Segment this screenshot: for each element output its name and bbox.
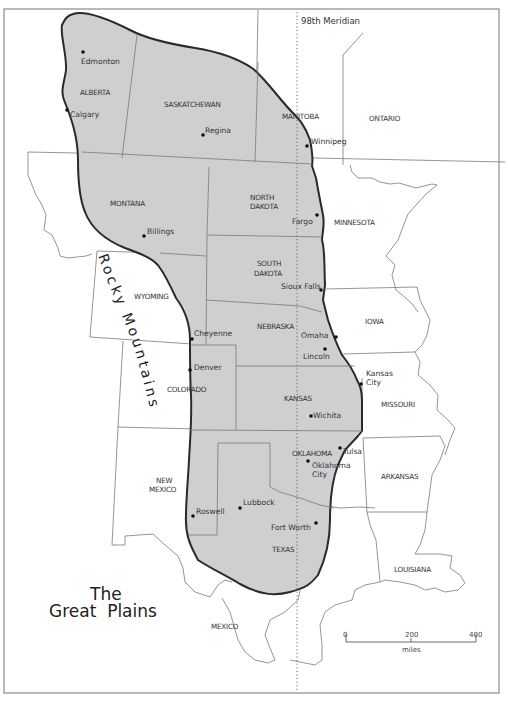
label-louisiana: LOUISIANA bbox=[394, 565, 431, 574]
city-dot-winnipeg bbox=[305, 144, 309, 148]
label-new-mexico: MEXICO bbox=[149, 485, 177, 494]
city-dot-billings bbox=[142, 234, 146, 238]
city-dot-kansas-city bbox=[359, 382, 363, 386]
scale-tick-0: 0 bbox=[343, 631, 347, 639]
label-minnesota: MINNESOTA bbox=[334, 218, 375, 227]
city-lincoln: Lincoln bbox=[303, 352, 330, 361]
city-calgary: Calgary bbox=[70, 110, 100, 119]
label-colorado: COLORADO bbox=[167, 385, 207, 394]
label-nebraska: NEBRASKA bbox=[257, 322, 294, 331]
city-cheyenne: Cheyenne bbox=[194, 329, 233, 338]
label-kansas: KANSAS bbox=[284, 394, 312, 403]
city-dot-lubbock bbox=[238, 506, 242, 510]
city-regina: Regina bbox=[205, 126, 231, 135]
label-ontario: ONTARIO bbox=[369, 114, 401, 123]
city-billings: Billings bbox=[147, 227, 174, 236]
city-dot-omaha bbox=[334, 335, 338, 339]
city-dot-roswell bbox=[191, 514, 195, 518]
label-alberta: ALBERTA bbox=[80, 88, 110, 97]
city-dot-fort-worth bbox=[314, 521, 318, 525]
label-missouri: MISSOURI bbox=[381, 400, 415, 409]
map-title-line2: Great Plains bbox=[49, 601, 157, 621]
rocky-mountains-text: Rocky Mountains bbox=[95, 252, 163, 411]
label-saskatchewan: SASKATCHEWAN bbox=[164, 100, 221, 109]
city-oklahoma: Oklahoma bbox=[312, 461, 351, 470]
city-omaha: Omaha bbox=[301, 331, 329, 340]
city-sioux-falls: Sioux Falls bbox=[281, 282, 321, 291]
city-dot-denver bbox=[188, 368, 192, 372]
label-wyoming: WYOMING bbox=[134, 292, 169, 301]
label-montana: MONTANA bbox=[110, 199, 145, 208]
label-north-dakota: DAKOTA bbox=[250, 202, 278, 211]
label-north: NORTH bbox=[250, 193, 274, 202]
city-oklahoma-city: City bbox=[312, 470, 327, 479]
city-denver: Denver bbox=[194, 363, 222, 372]
label-manitoba: MANITOBA bbox=[282, 112, 319, 121]
scale-tick-200: 200 bbox=[405, 631, 418, 639]
city-edmonton: Edmonton bbox=[81, 57, 120, 66]
label-oklahoma: OKLAHOMA bbox=[292, 449, 332, 458]
city-dot-lincoln bbox=[323, 347, 327, 351]
scale-bar: 0 200 400 miles bbox=[343, 631, 482, 654]
city-dot-edmonton bbox=[81, 50, 85, 54]
label-south-dakota: DAKOTA bbox=[254, 269, 282, 278]
label-south: SOUTH bbox=[257, 259, 281, 268]
city-fargo: Fargo bbox=[292, 217, 313, 226]
scale-tick-400: 400 bbox=[469, 631, 482, 639]
rocky-mountains-label: Rocky Mountains bbox=[95, 252, 163, 411]
city-fort-worth: Fort Worth bbox=[271, 523, 311, 532]
city-dot-calgary bbox=[65, 108, 69, 112]
label-mexico: MEXICO bbox=[211, 622, 239, 631]
city-dot-oklahoma-city bbox=[306, 459, 310, 463]
label-new: NEW bbox=[156, 476, 173, 485]
label-arkansas: ARKANSAS bbox=[381, 472, 419, 481]
label-iowa: IOWA bbox=[365, 317, 384, 326]
city-dot-tulsa bbox=[338, 446, 342, 450]
city-lubbock: Lubbock bbox=[243, 498, 275, 507]
city-kansas-city: City bbox=[366, 378, 381, 387]
meridian-label: 98th Meridian bbox=[301, 16, 360, 26]
great-plains-map: 98th Meridian ALBERTA SASKATCHEWAN MANIT… bbox=[0, 0, 508, 701]
city-kansas: Kansas bbox=[366, 369, 393, 378]
city-tulsa: Tulsa bbox=[342, 447, 362, 456]
city-dot-fargo bbox=[315, 213, 319, 217]
city-winnipeg: Winnipeg bbox=[311, 137, 347, 146]
city-wichita: Wichita bbox=[313, 411, 341, 420]
city-roswell: Roswell bbox=[196, 507, 225, 516]
scale-unit: miles bbox=[402, 646, 421, 654]
label-texas: TEXAS bbox=[271, 545, 295, 554]
